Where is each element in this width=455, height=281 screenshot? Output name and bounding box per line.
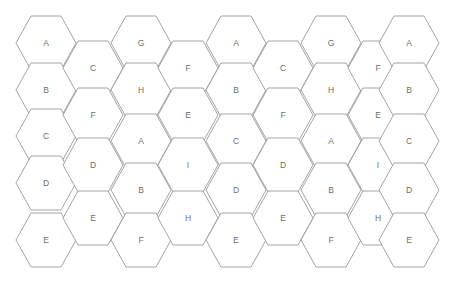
hex-cell-label: F bbox=[375, 63, 380, 73]
hex-cell-label: H bbox=[138, 85, 144, 95]
hex-cell-label: I bbox=[187, 160, 189, 170]
hex-cell-label: B bbox=[328, 185, 334, 195]
hex-cell-label: F bbox=[138, 235, 143, 245]
hex-cell-label: D bbox=[90, 160, 96, 170]
hex-column-0: ABCDE bbox=[16, 16, 76, 267]
hex-cell-label: F bbox=[328, 235, 333, 245]
hex-cell-label: C bbox=[43, 131, 49, 141]
hex-cell-label: E bbox=[90, 213, 96, 223]
hex-cell-label: A bbox=[233, 38, 239, 48]
hex-cell-label: B bbox=[43, 85, 49, 95]
hex-cell-label: D bbox=[406, 185, 412, 195]
hex-cell-label: C bbox=[280, 63, 286, 73]
hex-cell-label: C bbox=[406, 136, 412, 146]
hex-cell-label: E bbox=[375, 110, 381, 120]
hex-cell-label: E bbox=[233, 235, 239, 245]
hex-cell-label: F bbox=[280, 110, 285, 120]
hex-cell-label: E bbox=[185, 110, 191, 120]
hex-cell-label: A bbox=[406, 38, 412, 48]
hex-cell-label: F bbox=[90, 110, 95, 120]
hex-cell-label: H bbox=[375, 213, 381, 223]
hex-cell-label: E bbox=[280, 213, 286, 223]
hex-grid-diagram: ABCDECFDEGHABFFEIHABCDECFDEGHABFFEIHABCD… bbox=[0, 0, 455, 281]
hex-cell-label: B bbox=[138, 185, 144, 195]
hex-cell-label: E bbox=[43, 235, 49, 245]
hex-cell-label: G bbox=[328, 38, 335, 48]
hex-cell-label: A bbox=[138, 136, 144, 146]
hex-cell-label: C bbox=[90, 63, 96, 73]
hex-cell-label: A bbox=[43, 38, 49, 48]
hex-cell-label: B bbox=[406, 85, 412, 95]
hex-cell-label: D bbox=[280, 160, 286, 170]
hex-cell-label: B bbox=[233, 85, 239, 95]
hex-cell-label: A bbox=[328, 136, 334, 146]
hex-cell-label: H bbox=[328, 85, 334, 95]
hex-column-4: ABCDE bbox=[206, 16, 266, 267]
hex-column-2: GHABF bbox=[111, 16, 171, 267]
hex-column-8: ABCDE bbox=[379, 16, 439, 267]
hex-cell-label: F bbox=[185, 63, 190, 73]
hex-cell-label: H bbox=[185, 213, 191, 223]
hex-column-6: GHABF bbox=[301, 16, 361, 267]
hex-cell-label: D bbox=[43, 178, 49, 188]
hex-cell-label: G bbox=[138, 38, 145, 48]
hex-cell-label: E bbox=[406, 235, 412, 245]
hex-cell-label: I bbox=[377, 160, 379, 170]
hex-grid-surface: ABCDECFDEGHABFFEIHABCDECFDEGHABFFEIHABCD… bbox=[0, 0, 455, 281]
hex-cell-label: D bbox=[233, 185, 239, 195]
hex-cell-label: C bbox=[233, 136, 239, 146]
